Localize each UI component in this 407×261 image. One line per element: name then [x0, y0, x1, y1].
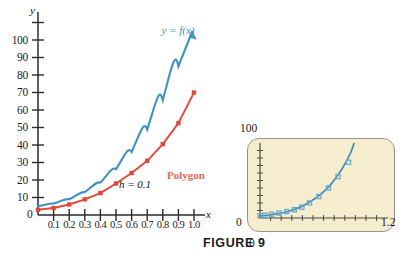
y-tick-label-30: 30 [2, 156, 28, 168]
x-axis-label: x [206, 208, 211, 220]
inset-series-markers [258, 160, 351, 218]
series-polygon [38, 93, 194, 210]
y-tick-label-60: 60 [2, 104, 28, 116]
figure-9-container: y x 0 10 20 30 40 50 60 70 80 90 100 0.1… [0, 0, 407, 261]
y-tick-label-20: 20 [2, 174, 28, 186]
inset-x-max-label: 1.2 [381, 216, 395, 228]
y-tick-label-90: 90 [2, 51, 28, 63]
y-axis-label: y [30, 4, 35, 16]
y-tick-label-50: 50 [2, 121, 28, 133]
figure-caption: FIGURE 9 [203, 236, 265, 250]
inset-calculator-screen [247, 138, 395, 232]
x-tick-label-1-0: 1.0 [183, 219, 205, 230]
y-tick-label-70: 70 [2, 86, 28, 98]
origin-label: 0 [27, 208, 33, 220]
main-chart: y x 0 10 20 30 40 50 60 70 80 90 100 0.1… [0, 0, 230, 240]
y-tick-label-40: 40 [2, 139, 28, 151]
annotation-curve-label: y = f(x) [161, 24, 194, 36]
annotation-polygon-label: Polygon [167, 169, 205, 181]
main-chart-canvas [0, 0, 230, 240]
series-polygon-markers [36, 90, 196, 212]
annotation-step-size-label: h = 0.1 [119, 178, 151, 190]
inset-chart-canvas [248, 139, 393, 230]
inset-y-max-label: 100 [240, 122, 257, 134]
y-tick-label-100: 100 [2, 34, 28, 46]
y-tick-label-80: 80 [2, 69, 28, 81]
inset-y-min-label: 0 [236, 216, 242, 228]
y-tick-label-10: 10 [2, 191, 28, 203]
